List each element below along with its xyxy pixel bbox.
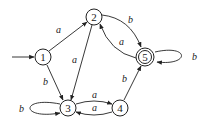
edge-5-5: [155, 50, 182, 62]
state-4-label: 4: [117, 102, 123, 114]
state-3-label: 3: [65, 102, 71, 114]
edge-1-2: [49, 22, 87, 51]
edge-3-3-label: b: [19, 103, 24, 114]
state-5-label: 5: [142, 51, 148, 63]
state-4: 4: [112, 100, 128, 116]
edge-4-5-label: b: [122, 73, 127, 84]
edge-4-3-label: a: [92, 102, 97, 113]
edge-3-3: [30, 102, 60, 114]
state-2-label: 2: [91, 11, 97, 23]
edge-5-5-label: b: [192, 51, 197, 62]
state-2: 2: [86, 9, 102, 25]
edge-2-3-label: a: [72, 54, 77, 65]
automaton-diagram: a b a b a b b a a b 1 2 3 4 5: [0, 0, 213, 134]
edge-1-3: [47, 65, 63, 100]
edge-1-2-label: a: [56, 24, 61, 35]
edge-2-5-label: b: [128, 14, 133, 25]
edge-5-2-label: a: [119, 36, 124, 47]
state-3: 3: [60, 100, 76, 116]
edge-3-4-label: a: [92, 89, 97, 100]
state-5-accepting: 5: [136, 48, 154, 66]
state-1: 1: [35, 49, 51, 65]
edge-1-3-label: b: [43, 76, 48, 87]
state-1-label: 1: [40, 51, 46, 63]
